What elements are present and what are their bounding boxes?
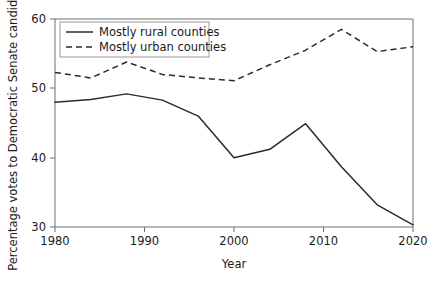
x-tick-label-1980: 1980 xyxy=(40,234,69,248)
x-tick-label-2020: 2020 xyxy=(398,234,427,248)
y-tick-label-60: 60 xyxy=(31,12,46,26)
legend: Mostly rural counties Mostly urban count… xyxy=(60,22,226,57)
x-axis-title: Year xyxy=(221,257,247,271)
y-axis-title: Percentage votes to Democratic Senate ca… xyxy=(6,0,20,271)
y-tick-label-30: 30 xyxy=(31,220,46,234)
legend-label-urban: Mostly urban counties xyxy=(99,40,226,54)
x-tick-label-1990: 1990 xyxy=(130,234,159,248)
x-tick-label-2000: 2000 xyxy=(219,234,248,248)
x-tick-label-2010: 2010 xyxy=(309,234,338,248)
y-tick-label-50: 50 xyxy=(31,81,46,95)
line-chart: 30 40 50 60 1980 1990 2000 2010 2020 Yea… xyxy=(0,0,439,283)
y-tick-label-40: 40 xyxy=(31,151,46,165)
chart-figure: 30 40 50 60 1980 1990 2000 2010 2020 Yea… xyxy=(0,0,439,283)
legend-label-rural: Mostly rural counties xyxy=(99,25,219,39)
